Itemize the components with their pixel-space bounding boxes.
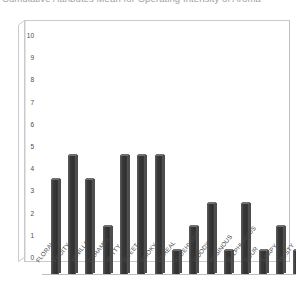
y-axis: 012345678910 — [18, 16, 36, 278]
y-axis-tick-1: 1 — [30, 233, 34, 240]
y-axis-tick-2: 2 — [30, 210, 34, 217]
page-title: Cumulative Attributes Mean for Operating… — [2, 0, 261, 4]
y-axis-tick-4: 4 — [30, 166, 34, 173]
y-axis-tick-5: 5 — [30, 144, 34, 151]
y-axis-tick-7: 7 — [30, 99, 34, 106]
bar-slot — [271, 36, 288, 274]
bar-slot — [63, 36, 80, 274]
chart-title-strip: Cumulative Attributes Mean for Operating… — [0, 0, 296, 9]
bar-slot — [202, 36, 219, 274]
plot-area — [42, 36, 296, 274]
bar-slot — [133, 36, 150, 274]
bar-musty[interactable] — [293, 250, 296, 274]
y-axis-tick-10: 10 — [27, 33, 34, 40]
y-axis-tick-9: 9 — [30, 55, 34, 62]
y-axis-tick-8: 8 — [30, 77, 34, 84]
x-axis-labels: FLORALFRUITYVANILLACARAMELNUTTYSWEETSMOK… — [24, 260, 290, 308]
bar-slot — [46, 36, 63, 274]
bar-slot — [115, 36, 132, 274]
bar-slot — [289, 36, 296, 274]
y-axis-tick-3: 3 — [30, 188, 34, 195]
chart-container: 012345678910 — [18, 16, 290, 262]
y-axis-tick-6: 6 — [30, 122, 34, 129]
bar-slot — [167, 36, 184, 274]
bar-slot — [254, 36, 271, 274]
bar-slot — [150, 36, 167, 274]
